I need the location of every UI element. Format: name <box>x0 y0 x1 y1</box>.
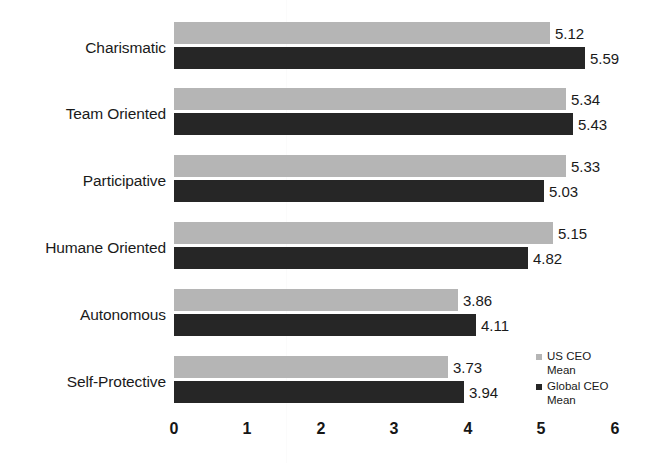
bar-value-global-humane-oriented: 4.82 <box>528 250 562 267</box>
bar-value-us-humane-oriented: 5.15 <box>553 225 587 242</box>
bar-global-participative[interactable] <box>174 180 544 202</box>
x-tick-1: 1 <box>227 420 267 438</box>
x-tick-6: 6 <box>595 420 635 438</box>
bar-us-self-protective[interactable] <box>174 356 448 378</box>
bar-global-self-protective[interactable] <box>174 381 464 403</box>
bar-us-autonomous[interactable] <box>174 289 458 311</box>
legend-label-global-ceo-mean-line2: Mean <box>547 394 648 408</box>
bar-chart: Charismatic 5.12 5.59 Team Oriented 5.34 <box>0 0 650 463</box>
bar-value-global-self-protective: 3.94 <box>464 384 498 401</box>
bar-value-us-autonomous: 3.86 <box>458 292 492 309</box>
bar-value-us-team-oriented: 5.34 <box>566 91 600 108</box>
x-tick-4: 4 <box>448 420 488 438</box>
plot-area: Charismatic 5.12 5.59 Team Oriented 5.34 <box>0 0 650 463</box>
bar-global-charismatic[interactable] <box>174 47 585 69</box>
bar-value-us-participative: 5.33 <box>566 158 600 175</box>
legend-label-us-ceo-mean-line1: US CEO <box>547 350 648 364</box>
bar-us-participative[interactable] <box>174 155 566 177</box>
bar-us-charismatic[interactable] <box>174 22 550 44</box>
bar-global-humane-oriented[interactable] <box>174 247 528 269</box>
bar-us-team-oriented[interactable] <box>174 88 566 110</box>
x-tick-2: 2 <box>301 420 341 438</box>
legend-item-us-ceo-mean[interactable]: US CEO Mean <box>536 350 648 377</box>
chart-legend: US CEO Mean Global CEO Mean <box>536 350 648 410</box>
x-axis: 0 1 2 3 4 5 6 <box>0 420 650 450</box>
bar-value-global-team-oriented: 5.43 <box>573 116 607 133</box>
bar-value-global-participative: 5.03 <box>544 183 578 200</box>
bar-global-team-oriented[interactable] <box>174 113 573 135</box>
bar-value-us-charismatic: 5.12 <box>550 25 584 42</box>
category-label-self-protective: Self-Protective <box>0 373 166 391</box>
legend-swatch-icon-us-ceo-mean <box>536 354 542 360</box>
category-label-charismatic: Charismatic <box>0 39 166 57</box>
category-label-autonomous: Autonomous <box>0 306 166 324</box>
bar-us-humane-oriented[interactable] <box>174 222 553 244</box>
x-tick-5: 5 <box>521 420 561 438</box>
bar-global-autonomous[interactable] <box>174 314 476 336</box>
category-label-team-oriented: Team Oriented <box>0 105 166 123</box>
bar-value-us-self-protective: 3.73 <box>448 359 482 376</box>
legend-item-global-ceo-mean[interactable]: Global CEO Mean <box>536 380 648 407</box>
bar-value-global-autonomous: 4.11 <box>476 317 509 334</box>
legend-label-us-ceo-mean-line2: Mean <box>547 364 648 378</box>
x-tick-0: 0 <box>154 420 194 438</box>
legend-label-global-ceo-mean-line1: Global CEO <box>547 380 648 394</box>
category-label-humane-oriented: Humane Oriented <box>0 239 166 257</box>
legend-swatch-icon-global-ceo-mean <box>536 384 542 390</box>
x-tick-3: 3 <box>374 420 414 438</box>
bar-value-global-charismatic: 5.59 <box>585 50 619 67</box>
category-label-participative: Participative <box>0 172 166 190</box>
